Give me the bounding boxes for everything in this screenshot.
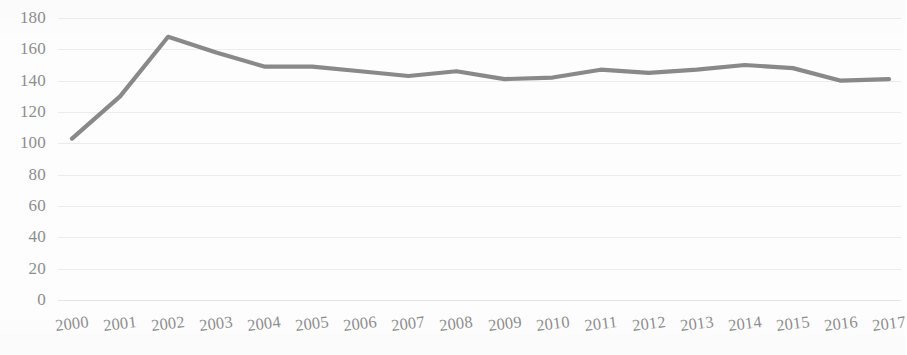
x-axis-tick-label: 2005	[294, 312, 330, 336]
x-axis-tick-label: 2004	[246, 312, 282, 336]
x-axis-tick-label: 2003	[198, 312, 234, 336]
x-axis-tick-label: 2007	[391, 312, 427, 336]
y-axis-tick-label: 20	[29, 259, 46, 279]
y-axis-tick-label: 80	[29, 165, 46, 185]
y-axis-tick-label: 0	[37, 290, 46, 310]
x-axis-tick-label: 2011	[583, 312, 618, 336]
y-axis-tick-label: 180	[20, 8, 46, 28]
x-axis-tick-label: 2000	[54, 312, 90, 336]
x-axis: 2000200120022003200420052006200720082009…	[58, 300, 901, 355]
x-axis-tick-label: 2015	[775, 312, 811, 336]
series-line-series-1	[72, 37, 889, 139]
x-axis-tick-label: 2010	[535, 312, 571, 336]
x-axis-tick-label: 2014	[727, 312, 763, 336]
x-axis-tick-label: 2013	[679, 312, 715, 336]
x-axis-tick-label: 2006	[343, 312, 379, 336]
x-axis-tick-label: 2017	[871, 312, 907, 336]
x-axis-tick-label: 2002	[150, 312, 186, 336]
y-axis-tick-label: 140	[20, 71, 46, 91]
x-axis-tick-label: 2001	[102, 312, 138, 336]
y-axis: 180160140120100806040200	[0, 0, 52, 322]
y-axis-tick-label: 100	[20, 133, 46, 153]
plot-area	[58, 18, 901, 300]
y-axis-tick-label: 60	[29, 196, 46, 216]
series-layer	[58, 18, 901, 300]
y-axis-tick-label: 40	[29, 227, 46, 247]
x-axis-tick-label: 2008	[439, 312, 475, 336]
x-axis-tick-label: 2012	[631, 312, 667, 336]
y-axis-tick-label: 160	[20, 39, 46, 59]
x-axis-tick-label: 2009	[487, 312, 523, 336]
x-axis-tick-label: 2016	[823, 312, 859, 336]
y-axis-tick-label: 120	[20, 102, 46, 122]
